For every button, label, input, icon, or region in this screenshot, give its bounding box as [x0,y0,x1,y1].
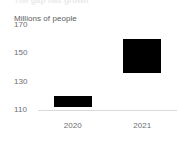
x-axis-baseline [38,110,177,111]
bar-2020 [54,96,92,107]
y-axis-tick-130: 130 [14,78,38,86]
x-axis-label-2021: 2021 [122,121,162,130]
y-axis-tick-110: 110 [14,106,38,114]
x-axis-label-2020: 2020 [53,121,93,130]
y-axis-tick-170: 170 [14,21,38,29]
bar-2021 [123,39,161,73]
y-axis-tick-150: 150 [14,49,38,57]
plot-area: 170 150 130 110 2020 2021 [0,0,182,142]
bar-chart: The gap has grown Millions of people 170… [0,0,182,142]
